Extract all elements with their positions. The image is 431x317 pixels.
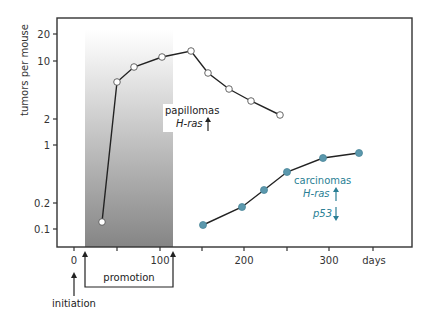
papilloma-point [188, 48, 195, 55]
p53-down-arrow-icon [333, 207, 339, 221]
carcinoma-point [200, 222, 207, 229]
y-tick-10: 10 [37, 56, 50, 67]
initiation-label: initiation [52, 298, 96, 309]
carcinoma-hras-up-arrow-icon [333, 187, 339, 201]
carcinomas-label: carcinomas [294, 175, 351, 186]
promotion-shaded-region [85, 30, 173, 247]
promotion-start-arrow-icon [82, 251, 88, 257]
p53-label: p53 [312, 208, 332, 219]
initiation-arrow-icon [71, 272, 77, 278]
papilloma-point [205, 70, 212, 77]
x-tick-0: 0 [71, 255, 77, 266]
carcinoma-point [261, 187, 268, 194]
carcinoma-point [284, 169, 291, 176]
promotion-end-arrow-icon [170, 251, 176, 257]
y-axis-title: tumors per mouse [19, 24, 30, 116]
papilloma-point [114, 79, 121, 86]
carcinoma-point [239, 204, 246, 211]
papilloma-point [248, 98, 255, 105]
x-axis-unit: days [362, 255, 386, 266]
carcinomas-hras-label: H-ras [303, 188, 330, 199]
y-tick-1: 1 [44, 140, 50, 151]
papilloma-point [131, 64, 138, 71]
papillomas-hras-label: H-ras [176, 118, 203, 129]
y-tick-20: 20 [37, 29, 50, 40]
promotion-label: promotion [103, 272, 154, 283]
x-tick-200: 200 [234, 255, 253, 266]
chart: 20 10 2 1 0.2 0.1 tumors per mouse 0 100… [0, 0, 431, 317]
x-tick-300: 300 [319, 255, 338, 266]
papilloma-point [226, 86, 233, 93]
papilloma-point [99, 219, 106, 226]
papilloma-point [277, 112, 284, 119]
y-tick-2: 2 [44, 114, 50, 125]
carcinoma-point [356, 150, 363, 157]
papillomas-label: papillomas [165, 105, 219, 116]
y-tick-0-1: 0.1 [34, 224, 50, 235]
carcinoma-point [320, 155, 327, 162]
x-tick-100: 100 [150, 255, 169, 266]
y-tick-0-2: 0.2 [34, 198, 50, 209]
papilloma-point [159, 54, 166, 61]
